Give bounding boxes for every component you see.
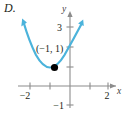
y-tick-label-pos3: 3 bbox=[57, 22, 62, 33]
x-axis-arrowhead bbox=[110, 83, 116, 88]
parabola-plot: (−1, 1) −2 2 3 −1 y x bbox=[0, 0, 125, 120]
x-tick-label-neg2: −2 bbox=[20, 90, 31, 101]
y-axis-label: y bbox=[61, 4, 67, 14]
vertex-point-label: (−1, 1) bbox=[36, 43, 63, 55]
vertex-point-marker bbox=[51, 64, 58, 71]
y-axis-arrowhead bbox=[67, 11, 72, 17]
y-tick-label-neg1: −1 bbox=[53, 100, 64, 111]
x-axis-label: x bbox=[116, 86, 122, 96]
figure-panel: D. (−1, 1) −2 2 3 −1 bbox=[0, 0, 125, 120]
x-tick-label-pos2: 2 bbox=[105, 90, 110, 101]
